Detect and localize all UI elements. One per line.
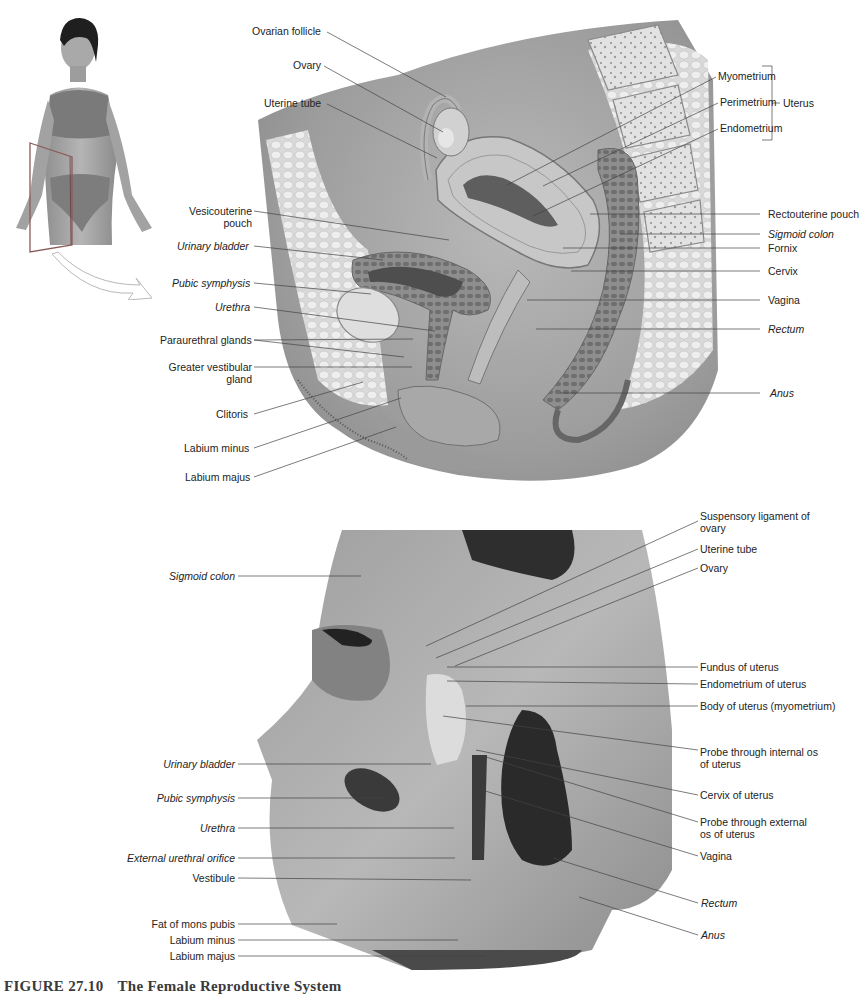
label-rectouterine-pouch: Rectouterine pouch <box>768 208 859 220</box>
label-uterus-bracket: Uterus <box>783 97 814 109</box>
label-endometrium-of-uterus: Endometrium of uterus <box>700 678 806 690</box>
label-greater-vestibular-gland: Greater vestibular gland <box>152 361 252 385</box>
label-labium-majus: Labium majus <box>185 471 250 483</box>
label-myometrium: Myometrium <box>718 70 776 82</box>
label-photo-pubic-symphysis: Pubic symphysis <box>100 792 235 804</box>
label-rectum: Rectum <box>768 323 804 335</box>
label-labium-minus: Labium minus <box>184 442 249 454</box>
label-fornix: Fornix <box>768 242 797 254</box>
label-anus: Anus <box>770 387 794 399</box>
label-body-of-uterus: Body of uterus (myometrium) <box>700 700 835 712</box>
thumbnail-figure <box>0 0 170 300</box>
figure-caption: FIGURE 27.10The Female Reproductive Syst… <box>4 978 342 995</box>
figure-title: The Female Reproductive System <box>117 978 341 994</box>
label-ovarian-follicle: Ovarian follicle <box>252 25 321 37</box>
label-pubic-symphysis: Pubic symphysis <box>172 277 250 289</box>
label-ovary: Ovary <box>293 59 321 71</box>
label-perimetrium: Perimetrium <box>720 96 777 108</box>
label-vestibule: Vestibule <box>100 872 235 884</box>
label-vagina: Vagina <box>768 294 800 306</box>
label-paraurethral-glands: Paraurethral glands <box>160 334 252 346</box>
label-vesicouterine-pouch: Vesicouterine pouch <box>172 205 252 229</box>
label-photo-vagina: Vagina <box>700 850 732 862</box>
label-photo-anus: Anus <box>701 929 725 941</box>
label-photo-labium-minus: Labium minus <box>100 934 235 946</box>
label-photo-labium-majus: Labium majus <box>100 950 235 962</box>
label-photo-ovary: Ovary <box>700 562 728 574</box>
label-photo-sigmoid-colon: Sigmoid colon <box>100 570 235 582</box>
sagittal-illustration <box>258 20 718 490</box>
label-endometrium: Endometrium <box>720 122 782 134</box>
label-photo-rectum: Rectum <box>701 897 737 909</box>
label-uterine-tube: Uterine tube <box>264 97 321 109</box>
label-external-urethral-orifice: External urethral orifice <box>90 852 235 864</box>
label-urinary-bladder: Urinary bladder <box>177 240 249 252</box>
label-sigmoid-colon: Sigmoid colon <box>768 228 834 240</box>
label-fundus-of-uterus: Fundus of uterus <box>700 661 779 673</box>
label-clitoris: Clitoris <box>216 408 248 420</box>
label-photo-urethra: Urethra <box>100 822 235 834</box>
label-suspensory-ligament-of-ovary: Suspensory ligament of ovary <box>700 510 820 534</box>
label-urethra: Urethra <box>215 301 250 313</box>
label-probe-internal-os: Probe through internal os of uterus <box>700 746 820 770</box>
label-fat-of-mons-pubis: Fat of mons pubis <box>100 918 235 930</box>
label-photo-urinary-bladder: Urinary bladder <box>100 758 235 770</box>
figure-number: FIGURE 27.10 <box>4 978 103 994</box>
label-probe-external-os: Probe through external os of uterus <box>700 816 820 840</box>
dissection-photo <box>252 530 672 970</box>
label-photo-uterine-tube: Uterine tube <box>700 543 757 555</box>
label-cervix: Cervix <box>768 265 798 277</box>
label-cervix-of-uterus: Cervix of uterus <box>700 789 774 801</box>
